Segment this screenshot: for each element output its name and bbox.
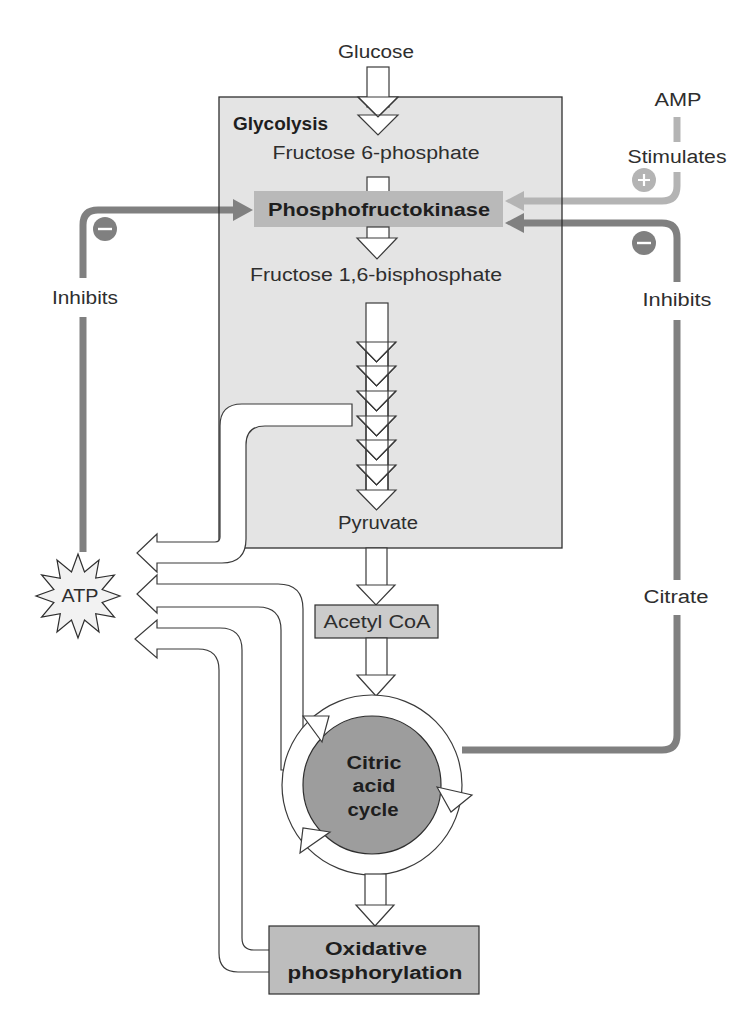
fructose-bisphosphate-label: Fructose 1,6-bisphosphate	[250, 265, 502, 285]
phosphofructokinase-label: Phosphofructokinase	[268, 200, 490, 220]
amp-label: AMP	[655, 90, 702, 110]
citric-label-line-1: Citric	[347, 753, 402, 773]
citrate-label: Citrate	[644, 587, 709, 607]
glycolysis-box	[219, 97, 562, 548]
stimulate-plus-icon	[632, 168, 656, 192]
acetyl-coa-label: Acetyl CoA	[324, 612, 431, 632]
citric-label-line-3: cycle	[348, 800, 399, 820]
pyruvate-label: Pyruvate	[338, 513, 418, 533]
fructose-6-phosphate-label: Fructose 6-phosphate	[273, 143, 480, 163]
oxphos-label-line-1: Oxidative	[325, 939, 427, 959]
glycolysis-title: Glycolysis	[233, 114, 328, 134]
oxphos-label-line-2: phosphorylation	[288, 963, 463, 983]
glucose-label: Glucose	[338, 42, 414, 62]
citric-label-line-2: acid	[353, 776, 396, 796]
atp-label: ATP	[62, 586, 99, 606]
atp-minus-icon	[93, 217, 117, 241]
inhibits-right-label: Inhibits	[643, 290, 712, 310]
citrate-minus-icon	[632, 231, 656, 255]
cycle-to-oxphos-arrow-icon	[356, 874, 394, 926]
stimulates-label: Stimulates	[628, 147, 727, 167]
inhibits-left-label: Inhibits	[52, 288, 118, 308]
respiration-regulation-diagram: Glucose Glycolysis Fructose 6-phosphate …	[0, 0, 746, 1015]
oxidative-phosphorylation-box	[269, 926, 479, 994]
acetyl-to-cycle-arrow-icon	[357, 638, 395, 696]
oxphos-atp-arrow	[135, 620, 270, 972]
citrate-line-lower	[462, 615, 677, 750]
pyruvate-to-acetyl-arrow-icon	[357, 548, 395, 605]
